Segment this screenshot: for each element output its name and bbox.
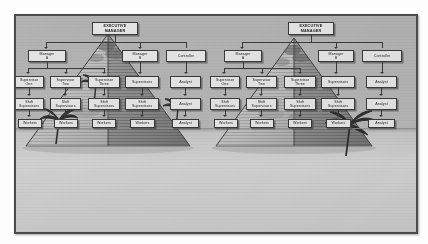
- connector: [242, 42, 382, 43]
- node-workers-1[interactable]: Workers: [18, 119, 42, 128]
- arrow-icon: [298, 115, 302, 117]
- arrow-icon: [184, 72, 188, 74]
- node-shift-supervisors-1[interactable]: Shift Supervisors: [210, 98, 240, 110]
- node-executive-manager[interactable]: EXECUTIVE MANAGER: [288, 22, 334, 35]
- arrow-icon: [379, 94, 383, 96]
- node-supervisors[interactable]: Supervisors: [125, 76, 159, 88]
- arrow-icon: [298, 72, 302, 74]
- node-supervisor-two[interactable]: Supervisor Two: [246, 76, 277, 88]
- arrow-icon: [223, 94, 227, 96]
- node-analyst-1[interactable]: Analyst: [170, 76, 201, 88]
- org-chart-left: EXECUTIVE MANAGER Manager A Manager B Co…: [18, 20, 214, 138]
- node-shift-supervisors-4[interactable]: Shift Supervisors: [321, 98, 355, 110]
- node-analyst-1[interactable]: Analyst: [366, 76, 397, 88]
- arrow-icon: [259, 115, 263, 117]
- node-workers-3[interactable]: Workers: [92, 119, 116, 128]
- arrow-icon: [26, 72, 30, 74]
- node-shift-supervisors-3[interactable]: Shift Supervisors: [284, 98, 316, 110]
- arrow-icon: [63, 94, 67, 96]
- arrow-icon: [380, 72, 384, 74]
- node-workers-2[interactable]: Workers: [250, 119, 274, 128]
- arrow-icon: [336, 94, 340, 96]
- node-supervisor-three[interactable]: Supervisor Three: [284, 76, 316, 88]
- arrow-icon: [102, 72, 106, 74]
- arrow-icon: [259, 94, 263, 96]
- node-controller[interactable]: Controller: [362, 50, 402, 62]
- arrow-icon: [223, 115, 227, 117]
- arrow-icon: [102, 94, 106, 96]
- node-controller[interactable]: Controller: [166, 50, 206, 62]
- org-chart-right: EXECUTIVE MANAGER Manager A Manager B Co…: [214, 20, 410, 138]
- node-supervisor-one[interactable]: Supervisor One: [14, 76, 44, 88]
- arrow-icon: [379, 115, 383, 117]
- connector: [115, 35, 116, 42]
- node-supervisor-three[interactable]: Supervisor Three: [88, 76, 120, 88]
- node-shift-supervisors-2[interactable]: Shift Supervisors: [50, 98, 81, 110]
- node-manager-b[interactable]: Manager B: [318, 50, 354, 62]
- connector: [46, 42, 186, 43]
- node-manager-a[interactable]: Manager A: [224, 50, 262, 62]
- arrow-icon: [138, 47, 142, 49]
- arrow-icon: [138, 72, 142, 74]
- node-analyst-2[interactable]: Analyst: [366, 98, 397, 110]
- node-workers-2[interactable]: Workers: [54, 119, 78, 128]
- node-executive-manager[interactable]: EXECUTIVE MANAGER: [92, 22, 138, 35]
- node-workers-3[interactable]: Workers: [288, 119, 312, 128]
- node-workers-4[interactable]: Workers: [130, 119, 155, 128]
- node-manager-a[interactable]: Manager A: [28, 50, 66, 62]
- arrow-icon: [298, 94, 302, 96]
- arrow-icon: [64, 72, 68, 74]
- arrow-icon: [240, 47, 244, 49]
- node-workers-1[interactable]: Workers: [214, 119, 238, 128]
- arrow-icon: [44, 47, 48, 49]
- arrow-icon: [27, 94, 31, 96]
- arrow-icon: [222, 72, 226, 74]
- arrow-icon: [27, 115, 31, 117]
- node-shift-supervisors-2[interactable]: Shift Supervisors: [246, 98, 277, 110]
- arrow-icon: [102, 115, 106, 117]
- illustration-frame: EXECUTIVE MANAGER Manager A Manager B Co…: [14, 14, 418, 234]
- node-analyst-2[interactable]: Analyst: [170, 98, 201, 110]
- node-analyst-3[interactable]: Analyst: [368, 119, 395, 128]
- arrow-icon: [334, 47, 338, 49]
- scanned-page: EXECUTIVE MANAGER Manager A Manager B Co…: [0, 0, 428, 244]
- arrow-icon: [140, 94, 144, 96]
- node-manager-b[interactable]: Manager B: [122, 50, 158, 62]
- node-workers-4[interactable]: Workers: [326, 119, 351, 128]
- node-supervisors[interactable]: Supervisors: [321, 76, 355, 88]
- node-shift-supervisors-1[interactable]: Shift Supervisors: [14, 98, 44, 110]
- node-analyst-3[interactable]: Analyst: [172, 119, 199, 128]
- arrow-icon: [334, 72, 338, 74]
- arrow-icon: [336, 115, 340, 117]
- arrow-icon: [183, 94, 187, 96]
- arrow-icon: [63, 115, 67, 117]
- connector: [382, 42, 383, 48]
- arrow-icon: [260, 72, 264, 74]
- connector: [186, 42, 187, 48]
- node-supervisor-two[interactable]: Supervisor Two: [50, 76, 81, 88]
- node-supervisor-one[interactable]: Supervisor One: [210, 76, 240, 88]
- node-shift-supervisors-4[interactable]: Shift Supervisors: [125, 98, 159, 110]
- arrow-icon: [183, 115, 187, 117]
- connector: [311, 35, 312, 42]
- arrow-icon: [140, 115, 144, 117]
- node-shift-supervisors-3[interactable]: Shift Supervisors: [88, 98, 120, 110]
